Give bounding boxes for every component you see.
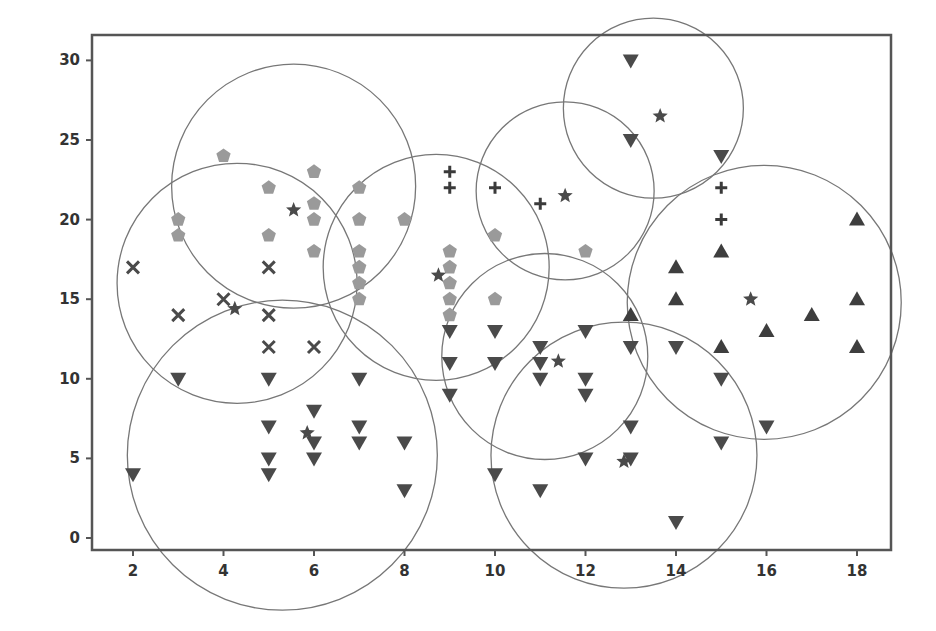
y-tick-label: 30 [59,51,80,69]
y-tick-label: 20 [59,211,80,229]
x-tick-label: 2 [128,562,138,580]
x-tick-label: 10 [485,562,506,580]
x-tick-label: 8 [399,562,409,580]
background [0,0,936,631]
scatter-chart: 24681012141618 051015202530 [0,0,936,631]
x-tick-label: 12 [575,562,596,580]
x-tick-label: 16 [756,562,777,580]
x-tick-label: 14 [666,562,687,580]
y-tick-label: 15 [59,290,80,308]
x-tick-label: 6 [309,562,319,580]
x-tick-label: 4 [218,562,228,580]
y-tick-label: 5 [70,449,80,467]
x-tick-label: 18 [847,562,868,580]
y-tick-label: 0 [70,529,80,547]
y-tick-label: 25 [59,131,80,149]
y-tick-label: 10 [59,370,80,388]
